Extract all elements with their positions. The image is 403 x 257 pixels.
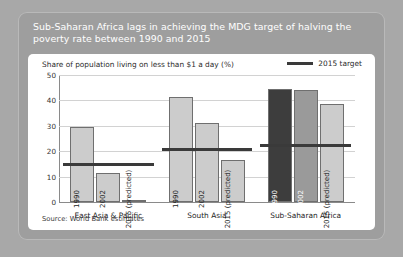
bar-label: 1990 [172,190,181,208]
plot-area: 01020304050 199020022015 (predicted)East… [59,75,355,202]
x-axis-group-label: Sub-Saharan Africa [256,211,355,220]
chart-panel: Share of population living on less than … [28,54,375,230]
bar-2015-predicted[interactable]: 2015 (predicted) [221,160,245,202]
chart-axis-title: Share of population living on less than … [42,60,234,69]
bar-2002[interactable]: 2002 [195,123,219,202]
bar-label: 2002 [297,190,306,208]
target-line [260,144,351,147]
y-axis-tick-30: 30 [47,121,56,130]
y-axis-tick-50: 50 [47,71,56,80]
target-line [63,163,154,166]
chart-legend: 2015 target [287,59,362,68]
y-axis-tick-20: 20 [47,147,56,156]
bars: 199020022015 (predicted) [59,75,158,202]
bar-label: 2002 [99,190,108,208]
bar-2002[interactable]: 2002 [96,173,120,202]
legend-line-marker-2015-target [287,62,313,65]
bar-label: 2002 [198,190,207,208]
bar-group-south-asia: 199020022015 (predicted)South Asia [158,75,257,202]
target-line [162,148,253,151]
x-axis-group-label: South Asia [158,211,257,220]
chart-source: Source: World Bank estimates [42,215,144,223]
bar-label: 1990 [73,190,82,208]
bar-2015-predicted[interactable]: 2015 (predicted) [320,104,344,202]
bar-2015-predicted[interactable]: 2015 (predicted) [122,200,146,202]
legend-label-2015-target: 2015 target [318,59,362,68]
y-axis-tick-0: 0 [51,198,56,207]
figure-card: Sub-Saharan Africa lags in achieving the… [18,12,385,240]
bars: 199020022015 (predicted) [158,75,257,202]
bar-label: 1990 [271,190,280,208]
bars: 199020022015 (predicted) [256,75,355,202]
bar-group-east-asia-pacific: 199020022015 (predicted)East Asia & Paci… [59,75,158,202]
figure-title: Sub-Saharan Africa lags in achieving the… [33,21,369,46]
bar-group-sub-saharan-africa: 199020022015 (predicted)Sub-Saharan Afri… [256,75,355,202]
y-axis-tick-40: 40 [47,96,56,105]
y-axis-tick-10: 10 [47,172,56,181]
